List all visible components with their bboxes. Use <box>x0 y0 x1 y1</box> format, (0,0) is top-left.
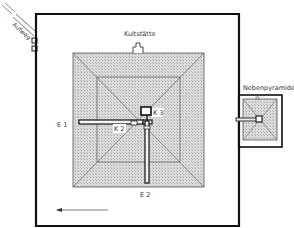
e1-label: E 1 <box>57 121 67 129</box>
k3-label: K 3 <box>153 109 163 117</box>
north-arrow-icon <box>56 208 108 212</box>
aufweg-label: Aufweg <box>11 21 33 42</box>
kultstaette-label: Kultstätte <box>124 30 155 38</box>
pyramid-site-plan: Aufweg Nebenpyramide Kultstätte K 3 <box>0 0 294 228</box>
nebenpyramide-label: Nebenpyramide <box>243 84 294 92</box>
e2-label: E 2 <box>140 191 150 199</box>
k2-label: K 2 <box>114 125 124 133</box>
cult-temple <box>133 43 143 53</box>
